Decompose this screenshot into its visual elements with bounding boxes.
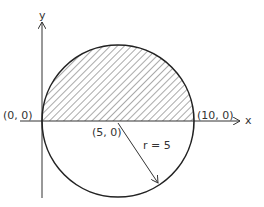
radius-label: r = 5: [143, 140, 171, 151]
y-axis-label: y: [39, 10, 46, 21]
radius-arrow: [118, 123, 158, 183]
right-point-label: (10, 0): [197, 110, 234, 121]
x-axis-label: x: [245, 115, 252, 126]
diagram-canvas: [0, 0, 264, 207]
center-label: (5, 0): [92, 127, 122, 138]
origin-label: (0, 0): [3, 110, 33, 121]
